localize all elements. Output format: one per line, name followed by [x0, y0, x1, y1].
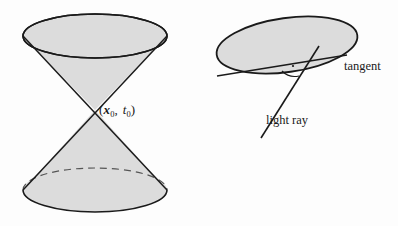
apex-label-comma: , — [114, 102, 119, 117]
light-cone-group — [23, 14, 167, 212]
apex-label-close-paren: ) — [131, 102, 135, 117]
light-ray-label: light ray — [266, 114, 308, 127]
diagram-svg — [0, 0, 398, 226]
figure-canvas: (x0, t0) tangent light ray — [0, 0, 398, 226]
cone-cross-section-disc — [213, 8, 361, 81]
apex-label-time-subscript: 0 — [127, 109, 131, 119]
tangent-label: tangent — [344, 60, 381, 73]
event-coordinate-label: (x0, t0) — [99, 103, 135, 116]
apex-label-position-subscript: 0 — [110, 109, 114, 119]
angle-dot — [292, 65, 294, 67]
apex-label-time-symbol: t — [123, 102, 127, 117]
